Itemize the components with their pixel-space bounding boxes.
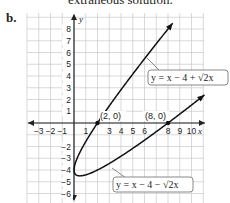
x-tick-label: −2 [46, 126, 56, 136]
lower-equation: y = x − 4 − √2x [116, 179, 178, 190]
x-tick-label: 9 [177, 126, 182, 136]
y-tick-label: −2 [61, 142, 71, 152]
y-tick-label: 1 [66, 106, 71, 116]
upper-equation: y = x − 4 + √2x [151, 72, 213, 83]
y-tick-label: 3 [66, 83, 71, 93]
x-tick-label: 3 [107, 126, 112, 136]
point-2-0 [95, 121, 99, 125]
x-tick-label: 4 [119, 126, 124, 136]
point-8-0 [166, 121, 170, 125]
x-axis-label: x [197, 126, 202, 136]
x-tick-label: −1 [57, 126, 67, 136]
lower-equation-callout: y = x − 4 − √2x [112, 168, 193, 192]
y-tick-label: −3 [61, 153, 71, 163]
x-tick-label: −3 [34, 126, 44, 136]
y-tick-label: 2 [66, 95, 71, 105]
point-label-2-0: (2, 0) [100, 111, 121, 121]
x-tick-label: 1 [83, 126, 88, 136]
y-tick-label: 4 [66, 71, 71, 81]
upper-equation-callout: y = x − 4 + √2x [146, 57, 228, 85]
y-tick-label: −5 [61, 177, 71, 187]
y-tick-label: 8 [66, 24, 71, 34]
y-tick-label: 5 [66, 59, 71, 69]
lower-curve [74, 95, 204, 176]
y-tick-label: 6 [66, 48, 71, 58]
x-tick-label: 6 [142, 126, 147, 136]
upper-curve [74, 23, 173, 170]
y-tick-label: 7 [66, 36, 71, 46]
y-tick-label: −6 [61, 189, 71, 199]
x-tick-label: 5 [130, 126, 135, 136]
y-axis-label: y [78, 14, 83, 24]
graph: −3−2−113456891087654321−2−3−4−5−6 y x (2… [0, 0, 230, 203]
point-label-8-0: (8, 0) [145, 111, 166, 121]
x-tick-label: 8 [166, 126, 171, 136]
grid [27, 13, 204, 203]
x-tick-label: 10 [187, 126, 197, 136]
y-tick-label: −4 [61, 165, 71, 175]
